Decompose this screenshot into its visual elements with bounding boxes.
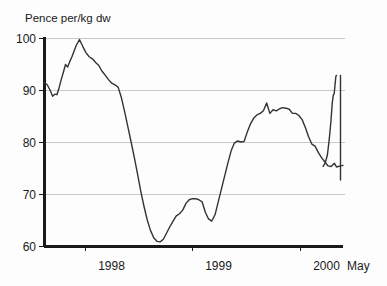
x-tick-label-1998: 1998 [98,259,125,273]
data-series [44,40,343,242]
price-line-chart: Pence per/kg dw 60708090100 199819992000… [0,0,387,286]
x-tick-labels: 199819992000 [98,259,340,273]
y-tick-label-60: 60 [23,240,37,254]
series-line-price [44,40,339,242]
series-final-spike [323,75,336,166]
y-tick-label-90: 90 [23,84,37,98]
y-tick-label-80: 80 [23,136,37,150]
x-axis [44,246,343,251]
y-axis-title: Pence per/kg dw [25,12,111,24]
x-tick-label-2000: 2000 [313,259,340,273]
y-axis [39,37,45,247]
y-tick-label-70: 70 [23,188,37,202]
y-tick-labels: 60708090100 [16,32,36,254]
y-tick-label-100: 100 [16,32,36,46]
x-axis-end-label: May [347,259,370,273]
chart-container: Pence per/kg dw 60708090100 199819992000… [0,0,387,286]
x-tick-label-1999: 1999 [205,259,232,273]
